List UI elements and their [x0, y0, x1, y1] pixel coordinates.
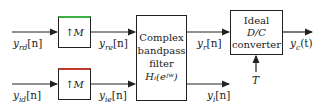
filter-line-3: filter: [137, 58, 186, 70]
signal-T: T: [252, 75, 259, 86]
signal-y-ie: yie[n]: [99, 90, 127, 104]
signal-y-rd: yrd[n]: [13, 38, 42, 52]
signal-y-i: yi[n]: [207, 90, 230, 104]
ideal-dc-converter-block: Ideal D/C converter: [230, 10, 283, 55]
signal-y-re: yre[n]: [99, 38, 128, 52]
upsampler-bottom-label: ↑M: [59, 79, 90, 91]
dc-line-2: D/C: [231, 27, 282, 39]
signal-y-r: yr[n]: [197, 38, 222, 52]
upsampler-top-block: ↑M: [58, 16, 91, 48]
upsampler-bottom-block: ↑M: [58, 68, 91, 100]
upsampler-top-label: ↑M: [59, 27, 90, 39]
dc-line-1: Ideal: [231, 15, 282, 27]
signal-y-id: yid[n]: [13, 90, 41, 104]
signal-y-c: yc(t): [290, 38, 313, 52]
filter-line-4: Hᵢ(eʲʷ): [137, 71, 186, 83]
block-diagram: ↑M ↑M Complex bandpass filter Hᵢ(eʲʷ) Id…: [0, 0, 323, 105]
filter-line-2: bandpass: [137, 45, 186, 57]
complex-bandpass-filter-block: Complex bandpass filter Hᵢ(eʲʷ): [136, 15, 187, 101]
dc-line-3: converter: [231, 39, 282, 51]
filter-line-1: Complex: [137, 32, 186, 44]
